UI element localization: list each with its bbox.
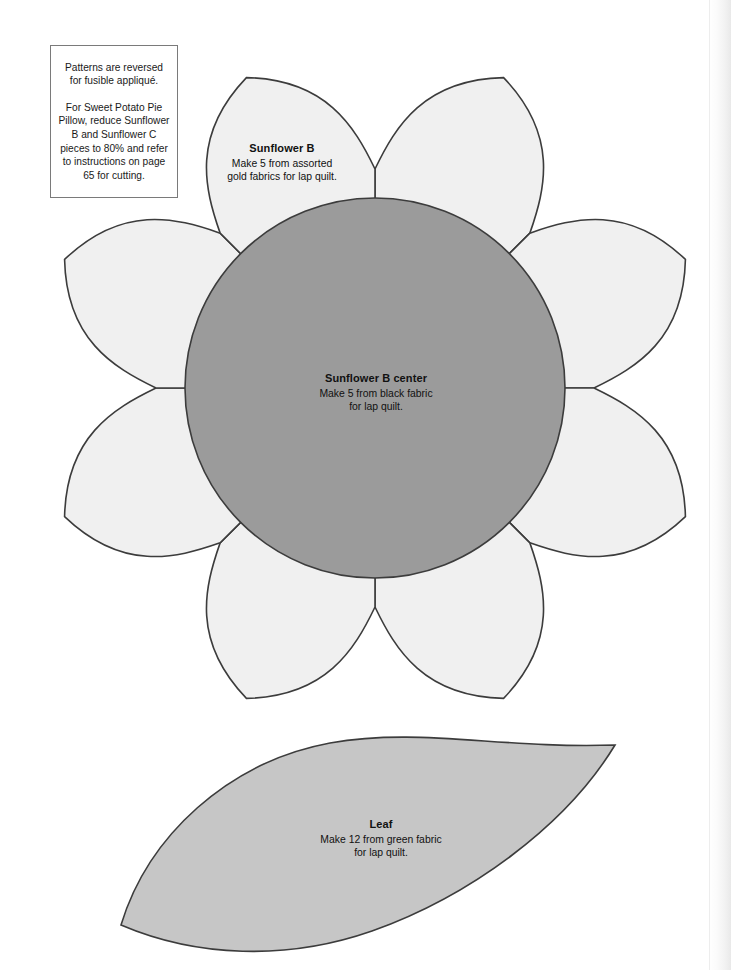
label-sunflower-b-line-2: gold fabrics for lap quilt.: [190, 170, 374, 184]
label-sunflower-b: Sunflower B Make 5 from assorted gold fa…: [190, 142, 374, 184]
label-sunflower-b-center-line-2: for lap quilt.: [283, 400, 469, 414]
label-sunflower-b-line-1: Make 5 from assorted: [190, 157, 374, 171]
page-edge-line: [709, 0, 710, 970]
label-leaf-title: Leaf: [290, 818, 472, 832]
pattern-note-box: Patterns are reversed for fusible appliq…: [50, 45, 178, 198]
label-sunflower-b-center: Sunflower B center Make 5 from black fab…: [283, 372, 469, 414]
label-leaf-line-1: Make 12 from green fabric: [290, 833, 472, 847]
label-sunflower-b-center-line-1: Make 5 from black fabric: [283, 387, 469, 401]
pattern-page: Patterns are reversed for fusible appliq…: [0, 0, 731, 970]
label-leaf-line-2: for lap quilt.: [290, 846, 472, 860]
note-paragraph-reduce: For Sweet Potato Pie Pillow, reduce Sunf…: [58, 101, 170, 183]
label-sunflower-b-title: Sunflower B: [190, 142, 374, 156]
label-leaf: Leaf Make 12 from green fabric for lap q…: [290, 818, 472, 860]
label-sunflower-b-center-title: Sunflower B center: [283, 372, 469, 386]
note-paragraph-reversed: Patterns are reversed for fusible appliq…: [58, 61, 170, 88]
